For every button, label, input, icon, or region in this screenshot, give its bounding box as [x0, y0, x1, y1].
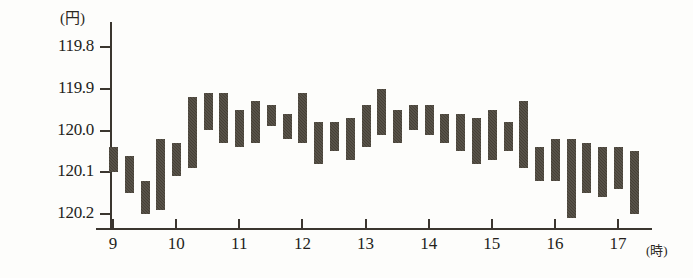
y-axis-line [110, 22, 112, 230]
range-bar [156, 139, 165, 210]
x-tick-mark [301, 219, 303, 228]
x-tick-mark [112, 219, 114, 228]
x-tick-label: 11 [219, 234, 259, 254]
range-bar [519, 101, 528, 168]
range-bar [409, 105, 418, 130]
range-bar [393, 110, 402, 143]
range-bar [283, 114, 292, 139]
x-tick-mark [428, 219, 430, 228]
y-tick-mark [100, 213, 110, 215]
y-tick-label: 120.1 [16, 161, 94, 181]
range-bar [535, 147, 544, 180]
range-bar [567, 139, 576, 218]
range-bar [598, 147, 607, 197]
range-bar [314, 122, 323, 164]
range-bar [377, 89, 386, 135]
x-tick-mark [175, 219, 177, 228]
range-bar [219, 93, 228, 143]
range-bar [456, 114, 465, 152]
range-bar [346, 118, 355, 160]
x-tick-mark [617, 219, 619, 228]
range-bar [267, 105, 276, 126]
y-tick-label: 120.0 [16, 120, 94, 140]
x-tick-mark [365, 219, 367, 228]
range-bar [440, 114, 449, 143]
x-tick-mark [491, 219, 493, 228]
y-axis-unit-label: (円) [60, 6, 85, 27]
y-tick-mark [100, 46, 110, 48]
x-tick-label: 16 [535, 234, 575, 254]
range-bar [582, 143, 591, 193]
x-tick-mark [238, 219, 240, 228]
range-bar [141, 181, 150, 214]
range-bar [551, 139, 560, 181]
x-tick-label: 9 [93, 234, 133, 254]
x-tick-label: 17 [598, 234, 638, 254]
exchange-rate-range-chart: (円) (時) 119.8119.9120.0120.1120.2 910111… [0, 0, 693, 278]
y-tick-label: 119.9 [16, 78, 94, 98]
range-bar [472, 118, 481, 164]
x-tick-label: 12 [282, 234, 322, 254]
range-bar [125, 156, 134, 194]
range-bar [109, 147, 118, 172]
y-tick-mark [100, 130, 110, 132]
range-bar [488, 110, 497, 160]
range-bar [251, 101, 260, 143]
range-bar [235, 110, 244, 148]
range-bar [630, 151, 639, 214]
y-tick-label: 119.8 [16, 36, 94, 56]
y-tick-mark [100, 88, 110, 90]
y-tick-label: 120.2 [16, 203, 94, 223]
x-axis-line [96, 228, 652, 230]
x-tick-label: 13 [346, 234, 386, 254]
range-bar [204, 93, 213, 131]
x-axis-unit-label: (時) [646, 240, 668, 259]
range-bar [614, 147, 623, 189]
x-tick-label: 15 [472, 234, 512, 254]
range-bar [188, 97, 197, 168]
range-bar [298, 93, 307, 143]
range-bar [330, 122, 339, 151]
x-tick-label: 14 [409, 234, 449, 254]
x-tick-mark [554, 219, 556, 228]
range-bar [362, 105, 371, 147]
x-tick-label: 10 [156, 234, 196, 254]
range-bar [504, 122, 513, 151]
range-bar [425, 105, 434, 134]
range-bar [172, 143, 181, 176]
